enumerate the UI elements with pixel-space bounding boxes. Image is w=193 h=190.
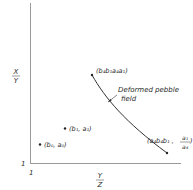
curve-name-line1: Deformed pebble [118,86,179,94]
diagram-canvas: X Y Y Z 1 1 (b₀, a₀) (b₁, a₁) (b₄b₁a₄a₁)… [0,0,193,190]
x-axis-label-denominator: Z [97,181,103,189]
y-axis-label: X Y [12,68,20,85]
x-axis-label: Y Z [96,172,104,189]
curve-start-marker [91,74,93,76]
point-marker [64,127,66,129]
point-b1-a1: (b₁, a₁) [64,125,92,133]
point-b0-a0: (b₀, a₀) [39,141,67,149]
origin-y-label: 1 [21,160,25,168]
curve-bottom-endpoint-label: (a₄b₄b₁ , a₁ a₄ ) [147,134,193,150]
point-label: (b₀, a₀) [44,141,67,149]
y-axis-label-numerator: X [13,68,19,76]
origin-x-label: 1 [29,169,33,177]
bottom-label-numerator: a₁ [182,134,189,141]
x-axis-label-numerator: Y [98,172,103,180]
curve-name-line2: field [121,95,137,103]
bottom-label-close: ) [189,137,193,145]
curve-name-label: Deformed pebble field [108,86,179,103]
point-marker [39,143,41,145]
y-axis-label-denominator: Y [14,77,19,85]
bottom-label-main: (a₄b₄b₁ , [147,137,174,145]
curve-end-marker [166,152,168,154]
point-label: (b₁, a₁) [69,125,92,133]
curve-top-endpoint-label: (b₄b₁a₄a₁) [96,67,128,75]
bottom-label-denominator: a₄ [182,143,189,150]
